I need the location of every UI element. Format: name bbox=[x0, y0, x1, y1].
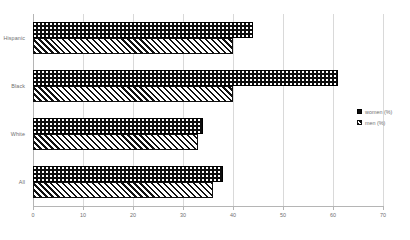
x-tick-30 bbox=[183, 206, 184, 210]
x-axis-line bbox=[33, 206, 383, 207]
bar-hispanic-women[interactable] bbox=[33, 22, 253, 38]
legend-item-men[interactable]: men (%) bbox=[357, 117, 409, 128]
x-tick-label-0: 0 bbox=[32, 212, 35, 218]
y-category-text-hispanic: Hispanic bbox=[4, 35, 25, 41]
legend-label-men: men (%) bbox=[365, 120, 385, 126]
y-category-text-all: All bbox=[19, 179, 25, 185]
gridline-50 bbox=[283, 14, 284, 206]
legend-item-women[interactable]: women (%) bbox=[357, 106, 409, 117]
x-tick-10 bbox=[83, 206, 84, 210]
legend-swatch-women-icon bbox=[357, 109, 362, 114]
gridline-40 bbox=[233, 14, 234, 206]
x-tick-0 bbox=[33, 206, 34, 210]
bar-white-men[interactable] bbox=[33, 134, 198, 150]
bar-all-men[interactable] bbox=[33, 182, 213, 198]
x-tick-70 bbox=[383, 206, 384, 210]
x-tick-label-30: 30 bbox=[180, 212, 186, 218]
bar-black-women[interactable] bbox=[33, 70, 338, 86]
bar-black-men[interactable] bbox=[33, 86, 233, 102]
y-category-text-white: White bbox=[11, 131, 25, 137]
x-tick-60 bbox=[333, 206, 334, 210]
x-tick-label-20: 20 bbox=[130, 212, 136, 218]
legend-swatch-men-icon bbox=[357, 120, 362, 125]
legend: women (%) men (%) bbox=[357, 106, 409, 128]
y-category-text-black: Black bbox=[11, 83, 25, 89]
x-tick-label-40: 40 bbox=[230, 212, 236, 218]
x-tick-label-60: 60 bbox=[330, 212, 336, 218]
x-tick-50 bbox=[283, 206, 284, 210]
legend-label-women: women (%) bbox=[365, 109, 392, 115]
x-tick-20 bbox=[133, 206, 134, 210]
x-tick-label-10: 10 bbox=[80, 212, 86, 218]
bar-chart: 0 10 20 30 40 50 60 70 Hispanic Black Wh… bbox=[0, 0, 410, 240]
x-tick-40 bbox=[233, 206, 234, 210]
x-tick-label-50: 50 bbox=[280, 212, 286, 218]
bar-white-women[interactable] bbox=[33, 118, 203, 134]
bar-hispanic-men[interactable] bbox=[33, 38, 233, 54]
x-tick-label-70: 70 bbox=[380, 212, 386, 218]
gridline-60 bbox=[333, 14, 334, 206]
plot-area bbox=[33, 14, 383, 206]
bar-all-women[interactable] bbox=[33, 166, 223, 182]
